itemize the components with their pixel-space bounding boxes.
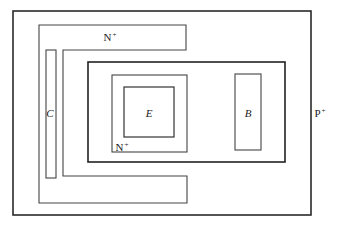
p-plus-substrate-label: P+	[314, 106, 325, 119]
substrate-letter: P	[314, 107, 320, 119]
n-plus-collector-outline	[39, 25, 187, 203]
collector-contact-label: C	[46, 108, 53, 119]
p-plus-substrate-outline	[13, 11, 311, 215]
substrate-doping: +	[322, 107, 326, 115]
collector-region-doping: +	[113, 31, 117, 39]
emitter-region-letter: N	[116, 141, 124, 153]
base-contact-label: B	[245, 108, 252, 119]
emitter-contact-label: E	[146, 108, 153, 119]
n-plus-emitter-label: N+	[116, 140, 129, 153]
transistor-layout-diagram: N+ C E N+ B P+	[0, 0, 339, 227]
n-plus-collector-label: N+	[104, 30, 117, 43]
emitter-region-doping: +	[125, 141, 129, 149]
collector-region-letter: N	[104, 31, 112, 43]
